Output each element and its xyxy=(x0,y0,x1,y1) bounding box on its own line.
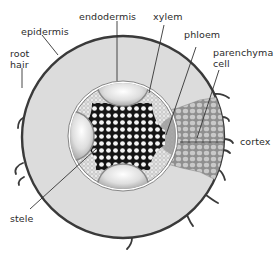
root-cross-section-diagram: epidermis endodermis xylem phloem parenc… xyxy=(0,0,279,258)
label-parenchyma-line1: parenchyma xyxy=(213,48,273,58)
label-cortex: cortex xyxy=(240,137,271,147)
label-phloem: phloem xyxy=(184,30,220,40)
label-endodermis: endodermis xyxy=(79,12,136,22)
label-root-hair-line1: root xyxy=(10,49,29,59)
label-parenchyma-line2: cell xyxy=(213,59,230,69)
diagram-graphic xyxy=(0,0,279,258)
label-stele: stele xyxy=(10,214,34,224)
label-epidermis: epidermis xyxy=(21,27,69,37)
label-root-hair-line2: hair xyxy=(10,60,29,70)
label-xylem: xylem xyxy=(153,12,182,22)
